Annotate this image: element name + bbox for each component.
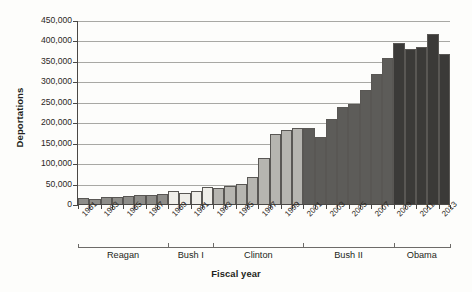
bar [348, 104, 359, 205]
plot-area [78, 21, 450, 205]
x-axis-tickmark [168, 205, 169, 209]
y-axis-tickmark [73, 21, 78, 22]
bar-series [78, 21, 450, 205]
bar [303, 128, 314, 205]
x-axis-tickmark [213, 205, 214, 209]
y-axis-tickmark [73, 82, 78, 83]
president-group-divider [213, 243, 214, 248]
bar [258, 158, 269, 205]
x-axis-tickmark [78, 205, 79, 209]
x-axis-tickmark [326, 205, 327, 209]
bar [427, 34, 438, 205]
president-group-label: Bush II [303, 250, 393, 260]
x-axis-tickmark [191, 205, 192, 209]
y-axis-tickmark [73, 185, 78, 186]
bar [393, 43, 404, 205]
y-axis-tickmark [73, 123, 78, 124]
bar [416, 47, 427, 205]
x-axis-tickmark [371, 205, 372, 209]
president-group-label: Clinton [213, 250, 303, 260]
x-axis-tickmark [349, 205, 350, 209]
bar [326, 119, 337, 205]
bar [382, 58, 393, 205]
bar [281, 130, 292, 205]
president-group-label: Bush I [168, 250, 213, 260]
y-axis-tick-label: 0 [14, 200, 72, 209]
president-group-divider [394, 243, 395, 248]
x-axis-tickmark [303, 205, 304, 209]
y-axis-tick-label: 350,000 [14, 57, 72, 66]
x-axis-tickmark [439, 205, 440, 209]
x-axis-tickmark [123, 205, 124, 209]
x-axis-tickmark [394, 205, 395, 209]
y-axis-tick-labels: 450,000400,000350,000300,000250,000200,0… [14, 0, 72, 292]
x-axis-title: Fiscal year [0, 268, 472, 279]
y-axis-tickmark [73, 164, 78, 165]
bar [439, 54, 450, 205]
x-axis-tickmark [236, 205, 237, 209]
bar [360, 90, 371, 205]
y-axis-tickmark [73, 144, 78, 145]
x-axis-tickmark [281, 205, 282, 209]
x-axis-tickmark [258, 205, 259, 209]
president-group-divider [168, 243, 169, 248]
bar [371, 74, 382, 205]
y-axis-tick-label: 450,000 [14, 16, 72, 25]
president-group-rule [394, 247, 450, 248]
y-axis-tick-label: 200,000 [14, 118, 72, 127]
president-group-rule [213, 247, 303, 248]
president-group-label: Reagan [78, 250, 168, 260]
president-group-rule [168, 247, 213, 248]
bar [337, 107, 348, 205]
bar [270, 134, 281, 205]
bar [315, 137, 326, 205]
y-axis-tick-label: 100,000 [14, 159, 72, 168]
y-axis-tick-label: 400,000 [14, 36, 72, 45]
president-group-divider [450, 244, 451, 248]
president-group-rule [78, 247, 168, 248]
x-axis-tickmark [416, 205, 417, 209]
president-group-rule [303, 247, 393, 248]
bar [292, 128, 303, 205]
president-group-divider [78, 244, 79, 248]
y-axis-tick-label: 50,000 [14, 180, 72, 189]
y-axis-tickmark [73, 41, 78, 42]
y-axis-tick-label: 150,000 [14, 139, 72, 148]
president-group-divider [303, 243, 304, 248]
x-axis-tickmark [101, 205, 102, 209]
y-axis-tick-label: 250,000 [14, 98, 72, 107]
bar [405, 49, 416, 205]
y-axis-tickmark [73, 62, 78, 63]
y-axis-tickmark [73, 103, 78, 104]
president-group-axis: ReaganBush IClintonBush IIObama [78, 247, 450, 269]
deportations-bar-chart: Deportations 450,000400,000350,000300,00… [0, 0, 472, 292]
x-axis-tickmark [146, 205, 147, 209]
y-axis-tick-label: 300,000 [14, 77, 72, 86]
president-group-label: Obama [394, 250, 450, 260]
